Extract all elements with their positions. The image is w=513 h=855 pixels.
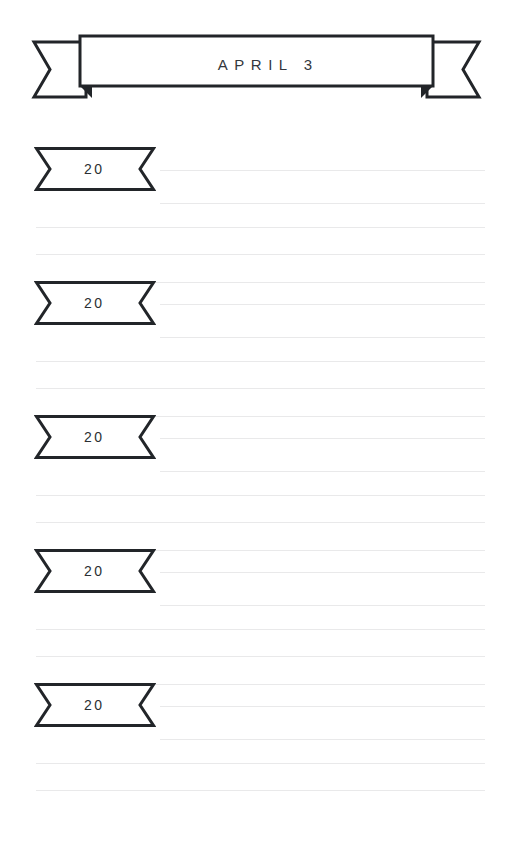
year-tag[interactable]: 20	[34, 414, 156, 460]
memory-page: APRIL 3 2020202020	[0, 0, 513, 855]
writing-line[interactable]	[160, 337, 485, 338]
writing-line[interactable]	[160, 572, 485, 573]
writing-line[interactable]	[36, 522, 485, 523]
year-tag[interactable]: 20	[34, 280, 156, 326]
writing-line[interactable]	[36, 388, 485, 389]
writing-line[interactable]	[160, 170, 485, 171]
writing-line[interactable]	[36, 656, 485, 657]
writing-line[interactable]	[36, 495, 485, 496]
writing-line[interactable]	[160, 605, 485, 606]
year-tag[interactable]: 20	[34, 682, 156, 728]
writing-line[interactable]	[160, 203, 485, 204]
writing-line[interactable]	[160, 304, 485, 305]
writing-line[interactable]	[160, 706, 485, 707]
writing-line[interactable]	[160, 471, 485, 472]
writing-line[interactable]	[36, 227, 485, 228]
ribbon-body	[80, 36, 433, 86]
year-tag[interactable]: 20	[34, 548, 156, 594]
writing-line[interactable]	[36, 361, 485, 362]
writing-line[interactable]	[160, 438, 485, 439]
year-tag[interactable]: 20	[34, 146, 156, 192]
writing-line[interactable]	[36, 254, 485, 255]
writing-line[interactable]	[36, 629, 485, 630]
writing-line[interactable]	[36, 763, 485, 764]
header-ribbon: APRIL 3	[0, 0, 513, 130]
writing-line[interactable]	[36, 790, 485, 791]
ribbon-tail-left	[34, 42, 86, 97]
writing-line[interactable]	[160, 739, 485, 740]
ribbon-tail-right	[427, 42, 479, 97]
